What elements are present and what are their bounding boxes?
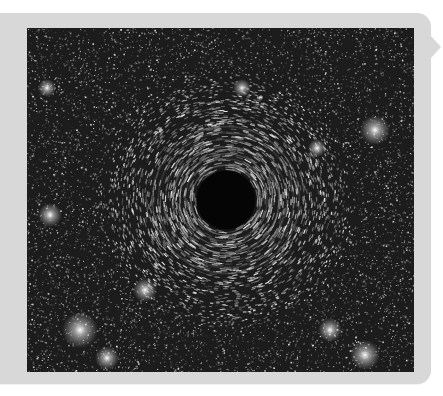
stage: [0, 0, 443, 396]
black-hole-image: [27, 28, 414, 372]
callout-pointer: [431, 36, 441, 58]
starfield-canvas: [27, 28, 414, 372]
